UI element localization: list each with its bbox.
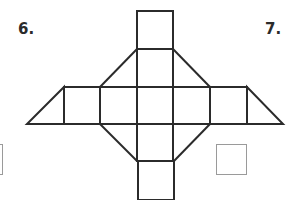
net-triangle-right-end [247, 87, 283, 124]
net-square-upper [137, 49, 173, 87]
net-square-top [137, 11, 173, 49]
net-square-lower [137, 124, 173, 161]
net-triangle-upper-right [173, 49, 210, 87]
net-square-left-outer [64, 87, 100, 124]
net-triangle-lower-right [174, 124, 210, 161]
net-square-bottom [138, 161, 174, 200]
net-square-center [137, 87, 173, 124]
net-triangle-upper-left [100, 49, 137, 87]
net-triangle-left-end [27, 87, 64, 124]
net-square-right-outer [210, 87, 247, 124]
net-triangle-lower-left [100, 124, 137, 161]
polyhedron-net-figure [0, 0, 294, 200]
net-square-right-inner [173, 87, 210, 124]
net-square-left-inner [100, 87, 137, 124]
